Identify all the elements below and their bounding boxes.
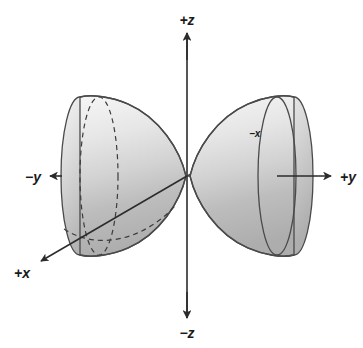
- lobe-left-body: [80, 96, 186, 256]
- axis-label-z-negative: −z: [179, 325, 194, 341]
- axis-label-x-positive: +x: [14, 265, 31, 281]
- figure-canvas: +z −z +y −y +x −x: [0, 0, 363, 348]
- orbital-axis-figure: +z −z +y −y +x −x: [0, 0, 363, 348]
- axis-label-x-negative: −x: [249, 128, 261, 139]
- lobe-negative-y: [61, 96, 186, 256]
- axis-label-y-positive: +y: [340, 169, 357, 185]
- axis-label-z-positive: +z: [179, 12, 194, 28]
- axis-label-y-negative: −y: [25, 169, 42, 185]
